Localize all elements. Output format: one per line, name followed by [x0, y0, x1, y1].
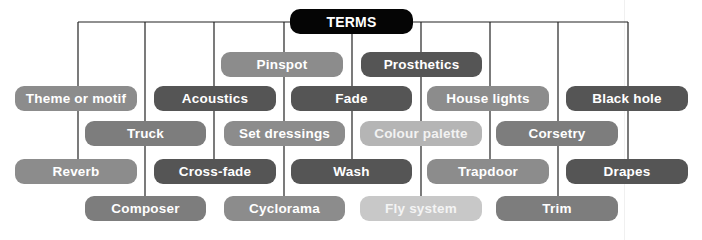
- term-theme-or-motif: Theme or motif: [15, 86, 137, 111]
- term-set-dressings: Set dressings: [224, 121, 345, 146]
- term-truck: Truck: [85, 121, 206, 146]
- term-fly-system: Fly system: [360, 196, 482, 221]
- root-node-terms: TERMS: [290, 9, 413, 34]
- term-drapes: Drapes: [566, 159, 688, 184]
- term-colour-palette: Colour palette: [360, 121, 482, 146]
- term-cyclorama: Cyclorama: [224, 196, 345, 221]
- term-wash: Wash: [291, 159, 412, 184]
- term-cross-fade: Cross-fade: [154, 159, 276, 184]
- term-black-hole: Black hole: [566, 86, 688, 111]
- term-corsetry: Corsetry: [496, 121, 618, 146]
- term-trapdoor: Trapdoor: [427, 159, 549, 184]
- term-acoustics: Acoustics: [154, 86, 276, 111]
- term-fade: Fade: [291, 86, 412, 111]
- term-reverb: Reverb: [15, 159, 137, 184]
- term-trim: Trim: [496, 196, 618, 221]
- term-prosthetics: Prosthetics: [361, 52, 482, 77]
- term-pinspot: Pinspot: [221, 52, 343, 77]
- term-house-lights: House lights: [427, 86, 549, 111]
- term-composer: Composer: [85, 196, 206, 221]
